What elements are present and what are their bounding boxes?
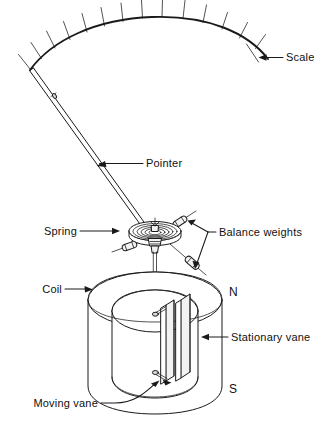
balance-weights-leader-lower <box>196 232 208 266</box>
moving-vane-face <box>166 300 174 381</box>
moving-vane <box>161 300 174 384</box>
scale-tick <box>256 35 266 49</box>
scale-tick <box>162 0 163 17</box>
center-post-body <box>152 226 159 232</box>
spring-label-group: Spring <box>44 225 120 237</box>
stationary-vane-edge <box>176 300 181 381</box>
scale-tick <box>203 5 207 23</box>
pointer-bead <box>52 93 58 99</box>
pointer-leader-arrowhead <box>97 161 107 167</box>
scale-tick <box>142 0 143 18</box>
scale-arc <box>30 17 268 70</box>
diagram-canvas: Scale Pointer <box>0 0 323 431</box>
scale-tick <box>240 23 248 39</box>
scale-tick <box>222 13 228 30</box>
pointer-edge-right <box>34 68 155 236</box>
spring-leader-arrowhead <box>112 228 120 234</box>
stationary-vane-label: Stationary vane <box>231 331 310 343</box>
scale-tick <box>82 14 87 33</box>
shaft-collar <box>149 239 162 254</box>
stationary-vane <box>176 294 190 381</box>
south-pole-label: S <box>229 382 237 396</box>
scale-tick-marks <box>19 0 266 70</box>
scale-arc-group <box>19 0 269 70</box>
scale-tick <box>19 55 31 70</box>
coil-label-group: Coil <box>42 283 93 295</box>
moving-vane-pivot-lower <box>152 371 158 375</box>
balance-weights-label: Balance weights <box>219 226 302 238</box>
scale-tick <box>31 43 42 59</box>
moving-vane-edge <box>161 305 166 384</box>
pointer-label: Pointer <box>146 157 182 169</box>
coil-assembly <box>88 272 222 414</box>
coil-label: Coil <box>42 283 62 295</box>
scale-tick <box>121 3 123 22</box>
scale-tick <box>183 1 185 19</box>
scale-tick <box>101 8 105 27</box>
scale-label: Scale <box>286 51 315 63</box>
north-pole-label: N <box>229 285 238 299</box>
balance-weights-label-group: Balance weights <box>188 220 303 270</box>
moving-vane-label: Moving vane <box>33 397 98 409</box>
spring-label: Spring <box>44 225 77 237</box>
pointer-group <box>30 68 155 238</box>
collar-upper <box>149 239 162 247</box>
pointer-edge-left <box>30 71 151 239</box>
scale-tick <box>47 31 56 48</box>
collar-lower <box>152 246 159 253</box>
scale-leader-arrowhead <box>259 54 267 60</box>
pointer-label-group: Pointer <box>97 157 183 169</box>
scale-tick <box>64 22 71 40</box>
moving-vane-pivot-upper <box>152 312 158 316</box>
meter-movement-diagram: Scale Pointer <box>0 0 323 431</box>
stationary-vane-face <box>181 294 190 378</box>
